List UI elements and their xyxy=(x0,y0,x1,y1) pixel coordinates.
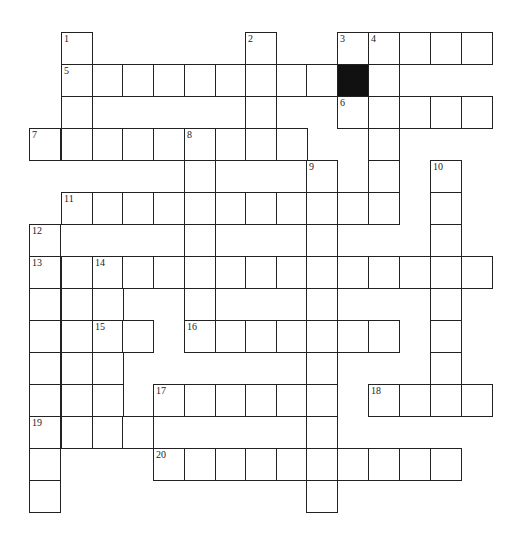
crossword-cell[interactable] xyxy=(215,128,247,161)
crossword-cell[interactable] xyxy=(430,448,462,481)
crossword-cell[interactable] xyxy=(430,256,462,289)
crossword-cell[interactable] xyxy=(461,384,493,417)
crossword-cell[interactable]: 11 xyxy=(61,192,93,225)
crossword-cell[interactable] xyxy=(29,480,61,513)
crossword-cell[interactable] xyxy=(430,288,462,321)
crossword-cell[interactable] xyxy=(306,256,338,289)
crossword-cell[interactable] xyxy=(399,256,431,289)
crossword-cell[interactable] xyxy=(61,128,93,161)
crossword-cell[interactable] xyxy=(461,32,493,65)
crossword-cell[interactable] xyxy=(430,224,462,257)
crossword-cell[interactable]: 19 xyxy=(29,416,61,449)
crossword-cell[interactable]: 10 xyxy=(430,160,462,193)
crossword-cell[interactable] xyxy=(184,64,216,97)
crossword-cell[interactable] xyxy=(306,320,338,353)
crossword-cell[interactable] xyxy=(122,192,154,225)
crossword-cell[interactable] xyxy=(276,192,308,225)
crossword-cell[interactable] xyxy=(61,288,93,321)
crossword-cell[interactable] xyxy=(184,192,216,225)
crossword-cell[interactable] xyxy=(368,320,400,353)
crossword-cell[interactable] xyxy=(92,192,124,225)
crossword-cell[interactable] xyxy=(337,320,369,353)
crossword-cell[interactable] xyxy=(245,320,277,353)
crossword-cell[interactable]: 6 xyxy=(337,96,369,129)
crossword-cell[interactable] xyxy=(215,320,247,353)
crossword-cell[interactable] xyxy=(215,384,247,417)
crossword-cell[interactable] xyxy=(29,448,61,481)
crossword-cell[interactable] xyxy=(306,224,338,257)
crossword-cell[interactable]: 12 xyxy=(29,224,61,257)
crossword-cell[interactable] xyxy=(153,64,185,97)
crossword-cell[interactable] xyxy=(92,384,124,417)
crossword-cell[interactable] xyxy=(122,320,154,353)
crossword-cell[interactable] xyxy=(430,384,462,417)
crossword-cell[interactable] xyxy=(306,448,338,481)
crossword-cell[interactable] xyxy=(61,320,93,353)
crossword-cell[interactable] xyxy=(368,96,400,129)
crossword-cell[interactable] xyxy=(276,128,308,161)
crossword-cell[interactable] xyxy=(61,352,93,385)
crossword-cell[interactable] xyxy=(92,64,124,97)
crossword-cell[interactable] xyxy=(337,192,369,225)
crossword-cell[interactable]: 5 xyxy=(61,64,93,97)
crossword-cell[interactable] xyxy=(306,64,338,97)
crossword-cell[interactable] xyxy=(184,448,216,481)
crossword-cell[interactable]: 8 xyxy=(184,128,216,161)
crossword-cell[interactable] xyxy=(184,160,216,193)
crossword-cell[interactable] xyxy=(368,64,400,97)
crossword-cell[interactable] xyxy=(92,416,124,449)
crossword-cell[interactable] xyxy=(184,288,216,321)
crossword-cell[interactable]: 16 xyxy=(184,320,216,353)
crossword-cell[interactable] xyxy=(430,192,462,225)
crossword-cell[interactable] xyxy=(153,192,185,225)
crossword-cell[interactable] xyxy=(306,288,338,321)
crossword-cell[interactable]: 1 xyxy=(61,32,93,65)
crossword-cell[interactable] xyxy=(245,192,277,225)
crossword-cell[interactable] xyxy=(368,192,400,225)
crossword-cell[interactable] xyxy=(215,256,247,289)
crossword-cell[interactable] xyxy=(122,416,154,449)
crossword-cell[interactable] xyxy=(61,96,93,129)
crossword-cell[interactable] xyxy=(337,256,369,289)
crossword-cell[interactable] xyxy=(92,352,124,385)
crossword-cell[interactable] xyxy=(368,448,400,481)
crossword-cell[interactable] xyxy=(368,256,400,289)
crossword-cell[interactable] xyxy=(399,32,431,65)
crossword-cell[interactable] xyxy=(399,384,431,417)
crossword-cell[interactable] xyxy=(245,256,277,289)
crossword-cell[interactable] xyxy=(368,160,400,193)
crossword-cell[interactable] xyxy=(184,256,216,289)
crossword-cell[interactable] xyxy=(461,256,493,289)
crossword-cell[interactable]: 17 xyxy=(153,384,185,417)
crossword-cell[interactable] xyxy=(368,128,400,161)
crossword-cell[interactable]: 20 xyxy=(153,448,185,481)
crossword-cell[interactable] xyxy=(276,256,308,289)
crossword-cell[interactable] xyxy=(29,320,61,353)
crossword-cell[interactable] xyxy=(276,384,308,417)
crossword-cell[interactable] xyxy=(184,384,216,417)
crossword-cell[interactable] xyxy=(337,448,369,481)
crossword-cell[interactable] xyxy=(430,32,462,65)
crossword-cell[interactable]: 13 xyxy=(29,256,61,289)
crossword-cell[interactable] xyxy=(306,352,338,385)
crossword-cell[interactable] xyxy=(245,96,277,129)
crossword-cell[interactable] xyxy=(153,256,185,289)
crossword-cell[interactable] xyxy=(215,192,247,225)
crossword-cell[interactable] xyxy=(399,448,431,481)
crossword-cell[interactable] xyxy=(245,64,277,97)
crossword-cell[interactable]: 3 xyxy=(337,32,369,65)
crossword-cell[interactable] xyxy=(153,128,185,161)
crossword-cell[interactable] xyxy=(122,128,154,161)
crossword-cell[interactable] xyxy=(61,384,93,417)
crossword-cell[interactable] xyxy=(276,64,308,97)
crossword-cell[interactable]: 2 xyxy=(245,32,277,65)
crossword-cell[interactable] xyxy=(92,288,124,321)
crossword-cell[interactable] xyxy=(61,416,93,449)
crossword-cell[interactable] xyxy=(276,448,308,481)
crossword-cell[interactable] xyxy=(184,224,216,257)
crossword-cell[interactable] xyxy=(29,288,61,321)
crossword-cell[interactable] xyxy=(245,128,277,161)
crossword-cell[interactable] xyxy=(29,352,61,385)
crossword-cell[interactable] xyxy=(245,448,277,481)
crossword-cell[interactable] xyxy=(461,96,493,129)
